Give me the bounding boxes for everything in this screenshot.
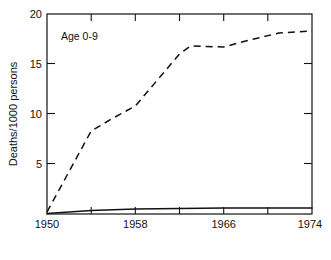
- x-tick-label-1966: 1966: [211, 218, 235, 230]
- y-tick-label-20: 20: [30, 8, 42, 20]
- x-tick-label-1950: 1950: [35, 218, 59, 230]
- line-chart: 20 15 10 5 Deaths/1000 persons 1950 1958…: [0, 0, 331, 260]
- chart-figure: 20 15 10 5 Deaths/1000 persons 1950 1958…: [0, 0, 331, 260]
- y-tick-label-15: 15: [30, 58, 42, 70]
- plot-annotation: Age 0-9: [61, 30, 98, 42]
- y-tick-label-10: 10: [30, 108, 42, 120]
- x-tick-label-1958: 1958: [123, 218, 147, 230]
- x-tick-label-1974: 1974: [298, 218, 322, 230]
- y-tick-label-5: 5: [36, 158, 42, 170]
- y-axis-title: Deaths/1000 persons: [7, 61, 19, 166]
